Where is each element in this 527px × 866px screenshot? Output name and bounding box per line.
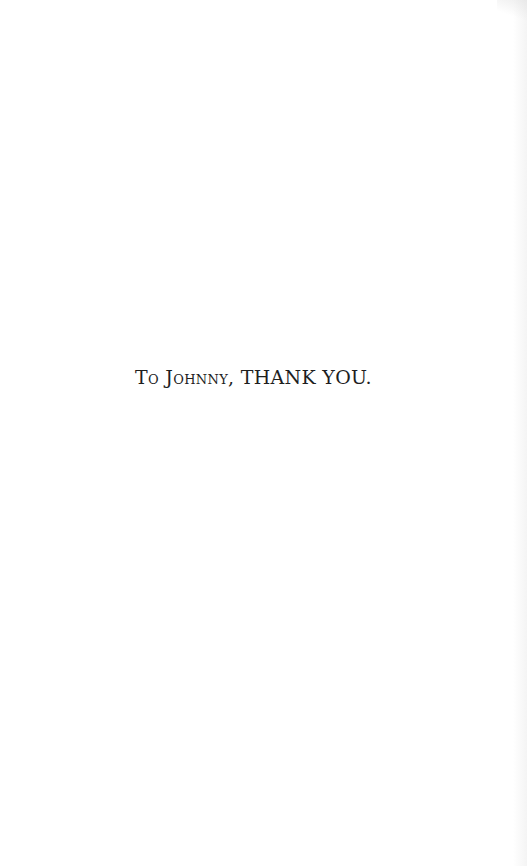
page-edge-shadow — [513, 0, 527, 866]
dedication-thanks: THANK YOU. — [241, 366, 372, 388]
page-corner-shadow — [497, 0, 527, 20]
dedication-text: To Johnny, THANK YOU. — [135, 365, 372, 389]
book-page: To Johnny, THANK YOU. — [0, 0, 527, 866]
dedication-recipient: To Johnny, — [135, 366, 234, 388]
